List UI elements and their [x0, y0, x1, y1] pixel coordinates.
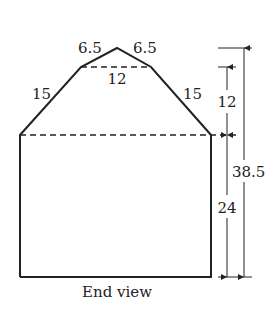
label-roof-upper-left: 6.5: [78, 39, 102, 57]
label-roof-lower-right: 15: [183, 85, 202, 103]
label-dim-roof-height: 12: [217, 93, 236, 111]
end-view-diagram: 6.5 6.5 12 15 15 12 24 38.5 End view: [0, 0, 273, 314]
label-dim-total-height: 38.5: [232, 163, 265, 181]
label-roof-upper-right: 6.5: [133, 39, 157, 57]
label-roof-top-width: 12: [107, 70, 126, 88]
caption-end-view: End view: [82, 283, 152, 301]
label-dim-wall-height: 24: [217, 199, 236, 217]
label-roof-lower-left: 15: [32, 85, 51, 103]
